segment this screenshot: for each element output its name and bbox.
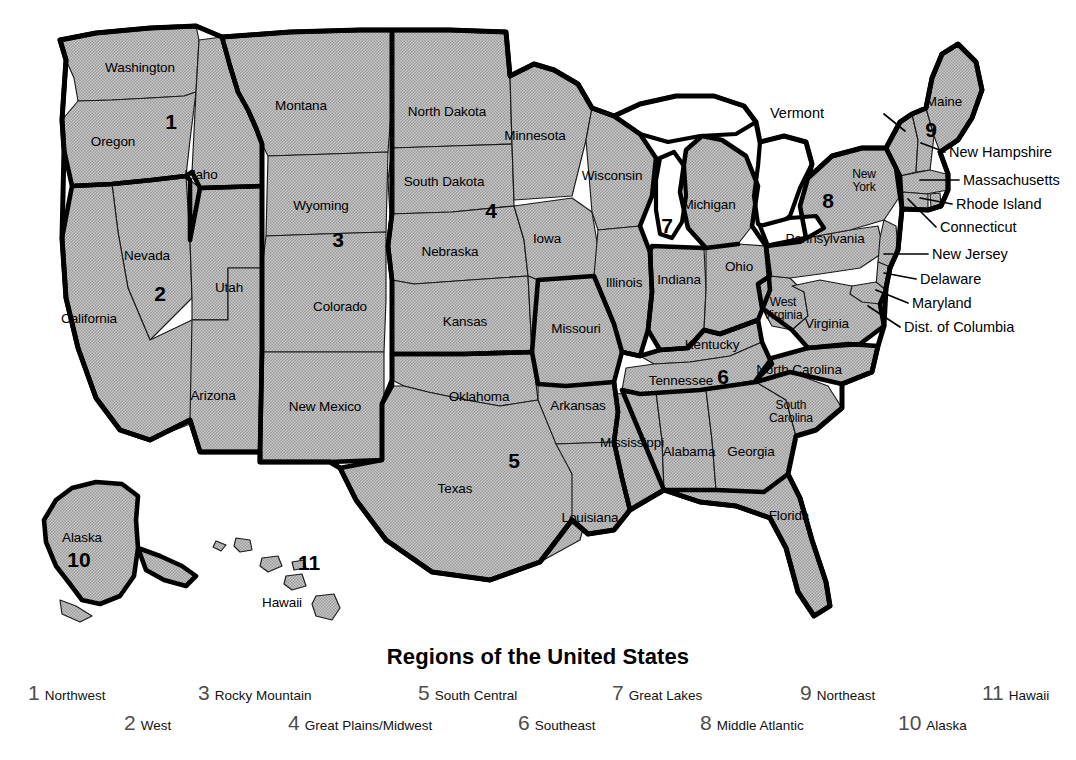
callout-label-new-hampshire: New Hampshire: [949, 144, 1052, 160]
region-number-5: 5: [508, 449, 520, 473]
state-oregon: [62, 92, 196, 186]
callout-label-new-jersey: New Jersey: [932, 246, 1008, 262]
state-shapes: [44, 26, 982, 622]
state-florida: [664, 474, 830, 616]
legend-name-11: Hawaii: [1009, 689, 1050, 703]
state-north-dakota: [392, 30, 512, 148]
legend-item-3[interactable]: 3Rocky Mountain: [198, 682, 311, 703]
legend-item-2[interactable]: 2West: [124, 712, 171, 733]
legend-item-10[interactable]: 10Alaska: [898, 712, 967, 733]
legend-number-11: 11: [982, 682, 1004, 703]
legend-number-3: 3: [198, 682, 210, 703]
legend-name-5: South Central: [435, 689, 518, 703]
state-nebraska: [388, 206, 528, 284]
legend-item-9[interactable]: 9Northeast: [800, 682, 875, 703]
legend-item-4[interactable]: 4Great Plains/Midwest: [288, 712, 432, 733]
state-alabama: [656, 390, 716, 490]
callout-label-rhode-island: Rhode Island: [956, 196, 1041, 212]
legend-number-8: 8: [700, 712, 712, 733]
callout-label-dist-of-columbia: Dist. of Columbia: [904, 319, 1014, 335]
region-number-7: 7: [661, 214, 673, 238]
legend-name-7: Great Lakes: [629, 689, 703, 703]
legend-item-7[interactable]: 7Great Lakes: [612, 682, 702, 703]
callout-label-massachusetts: Massachusetts: [963, 172, 1060, 188]
legend-name-8: Middle Atlantic: [717, 719, 804, 733]
region-number-2: 2: [154, 282, 166, 306]
legend-number-10: 10: [898, 712, 921, 733]
region-legend: 1Northwest2West3Rocky Mountain4Great Pla…: [0, 678, 1076, 750]
region-number-8: 8: [822, 189, 834, 213]
legend-name-6: Southeast: [535, 719, 596, 733]
state-kansas: [392, 276, 532, 354]
legend-name-1: Northwest: [45, 689, 106, 703]
page-title: Regions of the United States: [0, 644, 1076, 670]
state-iowa: [514, 198, 598, 280]
legend-name-9: Northeast: [817, 689, 876, 703]
legend-name-3: Rocky Mountain: [215, 689, 312, 703]
legend-number-7: 7: [612, 682, 624, 703]
state-wyoming: [266, 152, 388, 236]
legend-item-6[interactable]: 6Southeast: [518, 712, 595, 733]
legend-number-4: 4: [288, 712, 300, 733]
region-number-4: 4: [485, 199, 497, 223]
legend-name-2: West: [141, 719, 172, 733]
legend-number-6: 6: [518, 712, 530, 733]
callout-label-vermont: Vermont: [770, 105, 824, 121]
legend-number-1: 1: [28, 682, 40, 703]
region-number-3: 3: [332, 228, 344, 252]
region-number-6: 6: [717, 365, 729, 389]
state-colorado: [262, 232, 386, 352]
legend-item-8[interactable]: 8Middle Atlantic: [700, 712, 804, 733]
region-number-1: 1: [165, 110, 177, 134]
legend-name-10: Alaska: [926, 719, 967, 733]
callout-label-maryland: Maryland: [912, 295, 972, 311]
legend-item-11[interactable]: 11Hawaii: [982, 682, 1049, 703]
region-number-10: 10: [67, 548, 90, 572]
legend-number-5: 5: [418, 682, 430, 703]
legend-number-9: 9: [800, 682, 812, 703]
us-regions-map-figure: WashingtonOregonIdahoMontanaWyomingNevad…: [0, 0, 1076, 760]
state-hawaii: [213, 538, 340, 620]
legend-name-4: Great Plains/Midwest: [305, 719, 433, 733]
legend-number-2: 2: [124, 712, 136, 733]
legend-item-1[interactable]: 1Northwest: [28, 682, 105, 703]
state-new-mexico: [260, 352, 384, 462]
callout-label-connecticut: Connecticut: [940, 219, 1017, 235]
region-number-9: 9: [925, 118, 937, 142]
legend-item-5[interactable]: 5South Central: [418, 682, 517, 703]
callout-label-delaware: Delaware: [920, 271, 981, 287]
region-number-11: 11: [298, 551, 320, 575]
